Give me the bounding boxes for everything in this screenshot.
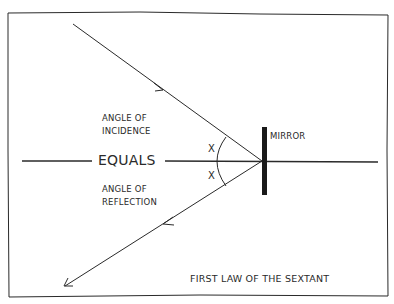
incident-arrow-icon (154, 83, 163, 91)
incidence-line-1: ANGLE OF (102, 112, 151, 125)
equals-label: EQUALS (98, 152, 156, 168)
incidence-line-2: INCIDENCE (102, 125, 151, 138)
mirror (262, 127, 267, 195)
normal-line-right (165, 161, 378, 162)
angle-x-bottom: X (208, 170, 215, 181)
sextant-diagram (0, 0, 394, 304)
angle-of-incidence-label: ANGLE OF INCIDENCE (102, 112, 151, 138)
reflection-line-2: REFLECTION (102, 196, 157, 209)
mirror-label: MIRROR (270, 130, 305, 143)
angle-x-top: X (208, 143, 215, 154)
diagram-title: FIRST LAW OF THE SEXTANT (190, 273, 329, 284)
frame (8, 12, 388, 297)
incident-ray (73, 24, 262, 161)
angle-of-reflection-label: ANGLE OF REFLECTION (102, 183, 157, 209)
reflection-line-1: ANGLE OF (102, 183, 157, 196)
